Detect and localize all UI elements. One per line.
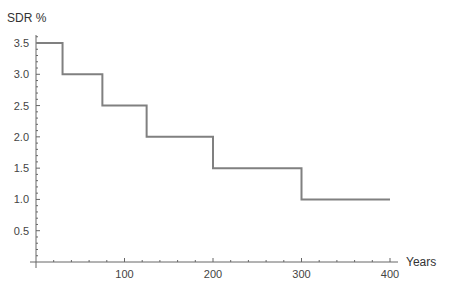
x-tick-label: 400 xyxy=(381,268,399,280)
y-tick-label: 2.0 xyxy=(14,131,29,143)
x-tick-label: 300 xyxy=(292,268,310,280)
y-tick-label: 2.5 xyxy=(14,100,29,112)
sdr-step-line xyxy=(36,43,390,199)
y-tick-label: 0.5 xyxy=(14,225,29,237)
step-chart: SDR % Years 1002003004000.51.01.52.02.53… xyxy=(0,0,451,290)
y-tick-label: 3.0 xyxy=(14,68,29,80)
x-axis-title: Years xyxy=(406,255,436,269)
x-tick-label: 100 xyxy=(115,268,133,280)
x-tick-label: 200 xyxy=(204,268,222,280)
y-tick-label: 1.5 xyxy=(14,162,29,174)
y-tick-label: 1.0 xyxy=(14,193,29,205)
y-axis-title: SDR % xyxy=(7,11,47,25)
y-tick-label: 3.5 xyxy=(14,37,29,49)
